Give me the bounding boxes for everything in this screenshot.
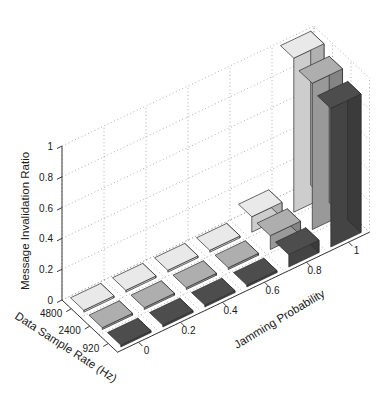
y-tick-label: 0.2 [182,325,196,336]
z-tick-label: 0 [47,295,53,306]
y-tick-label: 0.6 [266,285,280,296]
y-tick-label: 0.4 [224,305,238,316]
z-tick-label: 0.4 [39,233,53,244]
y-tick-label: 1 [354,245,360,256]
z-tick-label: 1 [47,141,53,152]
y-tick-label: 0 [144,345,150,356]
x-tick-label: 4800 [40,308,63,319]
chart-container: 10.80.60.40.204800240092000.20.40.60.81 … [0,0,376,410]
z-axis-title: Message Invalidation Ratio [19,152,31,290]
z-tick-label: 0.2 [39,264,53,275]
z-tick-label: 0.8 [39,172,53,183]
y-axis-title: Jamming Probability [232,287,327,351]
z-tick-label: 0.6 [39,203,53,214]
y-tick-label: 0.8 [308,265,322,276]
bar-face-right [348,81,361,232]
x-tick-label: 2400 [59,325,82,336]
three-d-bar-chart: 10.80.60.40.204800240092000.20.40.60.81 … [0,0,376,410]
